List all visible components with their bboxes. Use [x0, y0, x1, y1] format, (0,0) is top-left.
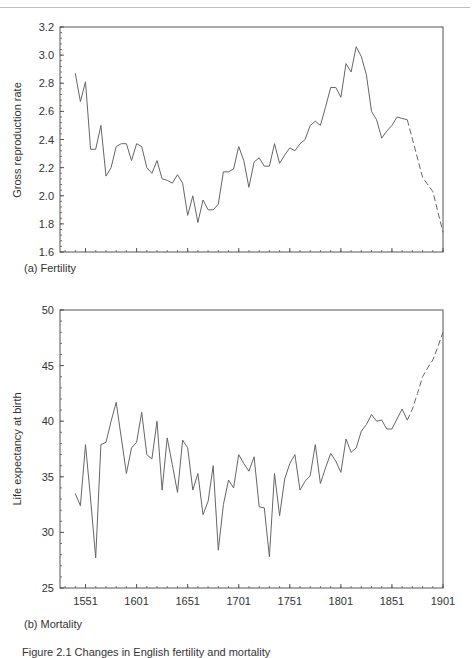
plot-frame: [60, 27, 443, 252]
x-tick-label: 1601: [124, 595, 148, 607]
x-tick-label: 1701: [226, 595, 250, 607]
y-tick-label: 50: [42, 304, 54, 316]
fertility-y-axis-title: Gross reproduction rate: [11, 82, 23, 198]
x-tick-label: 1751: [278, 595, 302, 607]
mortality-lines: [75, 332, 443, 558]
dashed-series-line: [407, 332, 443, 420]
mortality-axes: 2530354045501551160116511701175118011851…: [42, 304, 455, 607]
y-tick-label: 35: [42, 471, 54, 483]
x-tick-label: 1551: [73, 595, 97, 607]
y-tick-label: 30: [42, 526, 54, 538]
x-tick-label: 1851: [380, 595, 404, 607]
mortality-y-axis-title: Life expectancy at birth: [11, 392, 23, 505]
fertility-axes: 1.61.82.02.22.42.62.83.03.2: [39, 21, 443, 258]
y-tick-label: 3.2: [39, 21, 54, 33]
series-line: [75, 402, 407, 558]
y-tick-label: 2.2: [39, 162, 54, 174]
y-tick-label: 25: [42, 582, 54, 594]
y-tick-label: 2.6: [39, 105, 54, 117]
y-tick-label: 1.8: [39, 218, 54, 230]
mortality-panel-label: (b) Mortality: [24, 618, 82, 630]
y-tick-label: 3.0: [39, 49, 54, 61]
y-tick-label: 40: [42, 415, 54, 427]
y-tick-label: 2.0: [39, 190, 54, 202]
y-tick-label: 2.4: [39, 134, 54, 146]
x-tick-label: 1801: [329, 595, 353, 607]
y-tick-label: 1.6: [39, 246, 54, 258]
fertility-panel-label: (a) Fertility: [24, 262, 76, 274]
fertility-chart: 1.61.82.02.22.42.62.83.03.2 Gross reprod…: [11, 21, 443, 258]
mortality-chart: 2530354045501551160116511701175118011851…: [11, 304, 455, 607]
x-tick-label: 1651: [175, 595, 199, 607]
y-tick-label: 45: [42, 360, 54, 372]
x-tick-label: 1901: [431, 595, 455, 607]
figure-caption: Figure 2.1 Changes in English fertility …: [22, 646, 270, 658]
fertility-lines: [75, 47, 443, 233]
dashed-series-line: [407, 120, 443, 233]
series-line: [75, 47, 407, 223]
plot-frame: [60, 310, 443, 588]
y-tick-label: 2.8: [39, 77, 54, 89]
